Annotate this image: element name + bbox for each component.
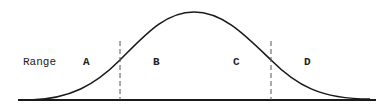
distribution-diagram: Range A B C D — [0, 0, 389, 108]
region-label-d: D — [304, 56, 311, 68]
bell-curve — [30, 12, 370, 100]
range-axis-label: Range — [23, 56, 56, 68]
region-label-a: A — [83, 56, 90, 68]
region-label-c: C — [233, 56, 240, 68]
region-label-b: B — [153, 56, 160, 68]
bell-curve-graphic — [0, 0, 389, 108]
